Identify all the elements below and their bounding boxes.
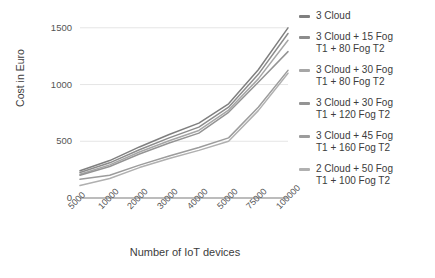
line-chart: Cost in Euro 050010001500 50001000020000…: [0, 0, 435, 278]
x-axis-tick-label: 20000: [125, 186, 150, 211]
legend-item[interactable]: 3 Cloud + 30 Fog T1 + 120 Fog T2: [299, 97, 431, 121]
legend-swatch-icon: [299, 36, 310, 39]
x-axis-tick-label: 40000: [185, 186, 210, 211]
legend-swatch-icon: [299, 135, 310, 138]
legend-swatch-icon: [299, 168, 310, 171]
legend-label: 3 Cloud + 30 Fog T1 + 120 Fog T2: [316, 97, 393, 121]
legend-item[interactable]: 3 Cloud + 30 Fog T1 + 80 Fog T2: [299, 64, 431, 88]
legend-item[interactable]: 3 Cloud + 15 Fog T1 + 80 Fog T2: [299, 31, 431, 55]
legend-item[interactable]: 2 Cloud + 50 Fog T1 + 100 Fog T2: [299, 163, 431, 187]
x-axis-tick-label: 10000: [96, 186, 121, 211]
legend-swatch-icon: [299, 69, 310, 72]
legend-item[interactable]: 3 Cloud: [299, 10, 431, 22]
x-axis-tick-label: 30000: [155, 186, 180, 211]
x-axis-title: Number of IoT devices: [80, 246, 290, 258]
legend-label: 3 Cloud + 30 Fog T1 + 80 Fog T2: [316, 64, 393, 88]
x-axis-tick-label: 50000: [215, 186, 240, 211]
legend-swatch-icon: [299, 15, 310, 18]
x-axis-tick-label: 5000: [66, 190, 87, 211]
legend-label: 2 Cloud + 50 Fog T1 + 100 Fog T2: [316, 163, 393, 187]
legend-label: 3 Cloud + 45 Fog T1 + 160 Fog T2: [316, 130, 393, 154]
legend-item[interactable]: 3 Cloud + 45 Fog T1 + 160 Fog T2: [299, 130, 431, 154]
legend-label: 3 Cloud + 15 Fog T1 + 80 Fog T2: [316, 31, 393, 55]
chart-legend: 3 Cloud3 Cloud + 15 Fog T1 + 80 Fog T23 …: [299, 10, 431, 196]
x-axis-tick-label: 75000: [244, 186, 269, 211]
legend-label: 3 Cloud: [316, 10, 350, 22]
legend-swatch-icon: [299, 102, 310, 105]
